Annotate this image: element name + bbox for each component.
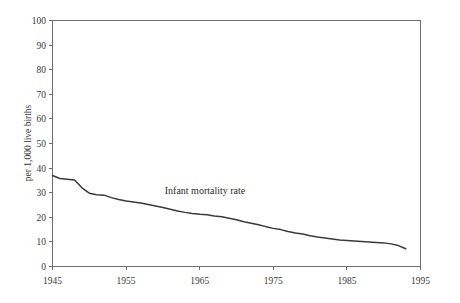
series-annotation-label: Infant mortality rate	[165, 185, 246, 196]
x-tick-label: 1995	[411, 276, 430, 286]
chart-background	[0, 0, 460, 303]
x-tick-label: 1955	[117, 276, 136, 286]
y-axis-title: per 1,000 live births	[23, 104, 33, 181]
y-tick-label: 10	[37, 237, 47, 247]
y-tick-label: 60	[37, 114, 47, 124]
infant-mortality-chart: 194519551965197519851995 010203040506070…	[0, 0, 460, 303]
y-tick-label: 70	[37, 90, 47, 100]
y-tick-label: 80	[37, 65, 47, 75]
y-tick-label: 40	[37, 164, 47, 174]
x-tick-label: 1945	[43, 276, 62, 286]
y-tick-label: 100	[32, 16, 47, 26]
x-tick-label: 1985	[337, 276, 356, 286]
x-tick-label: 1965	[190, 276, 209, 286]
y-tick-label: 30	[37, 188, 47, 198]
x-tick-label: 1975	[264, 276, 283, 286]
y-tick-label: 50	[37, 139, 47, 149]
chart-canvas: 194519551965197519851995 010203040506070…	[0, 0, 460, 303]
y-tick-label: 90	[37, 41, 47, 51]
y-tick-label: 0	[41, 262, 46, 272]
y-tick-label: 20	[37, 213, 47, 223]
